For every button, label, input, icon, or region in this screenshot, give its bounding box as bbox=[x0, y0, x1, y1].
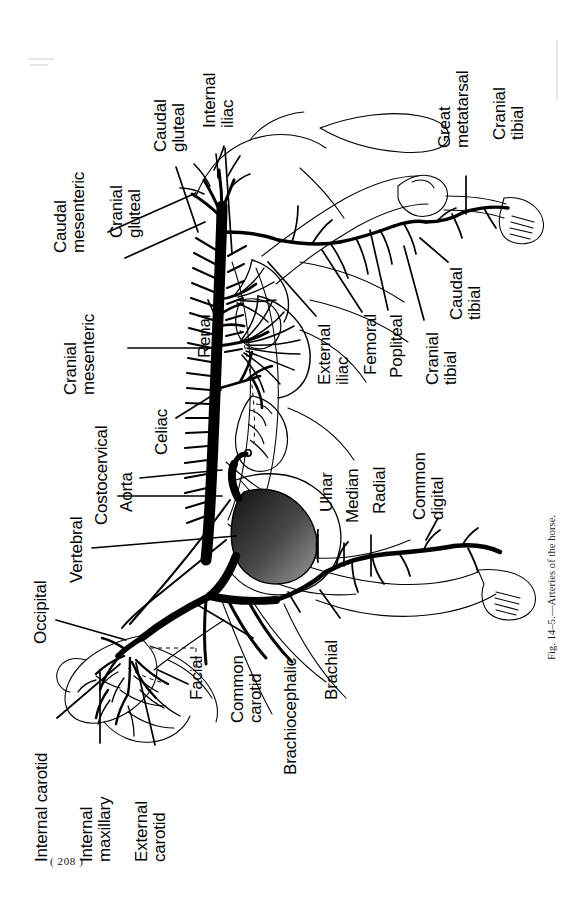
label-cranial-tibial-lower: Cranial tibial bbox=[491, 88, 527, 140]
label-popliteal: Popliteal bbox=[388, 315, 405, 378]
label-femoral: Femoral bbox=[362, 314, 379, 375]
label-external-carotid: External carotid bbox=[133, 801, 169, 862]
label-facial: Facial bbox=[188, 656, 205, 700]
label-caudal-mesenteric: Caudal mesenteric bbox=[52, 172, 88, 253]
label-renal: Renal bbox=[196, 315, 213, 358]
label-internal-carotid: Internal carotid bbox=[33, 753, 50, 862]
label-aorta: Aorta bbox=[118, 472, 135, 512]
label-ulnar: Ulnar bbox=[318, 472, 335, 512]
page-number: ( 208 ) bbox=[50, 855, 84, 867]
label-median: Median bbox=[344, 468, 361, 523]
label-caudal-tibial: Caudal tibial bbox=[448, 267, 484, 320]
label-celiac: Celiac bbox=[153, 409, 170, 455]
kidney-outline bbox=[236, 299, 281, 349]
label-common-carotid: Common carotid bbox=[229, 655, 265, 723]
label-great-metatarsal: Great metatarsal bbox=[436, 71, 472, 148]
cranial-mesenteric-fan bbox=[218, 296, 310, 398]
label-costocervical: Costocervical bbox=[93, 426, 110, 525]
gluteal-branch-twigs bbox=[180, 146, 250, 194]
scan-speck bbox=[30, 64, 48, 66]
label-occipital: Occipital bbox=[32, 581, 49, 644]
label-external-iliac: External iliac bbox=[316, 324, 352, 385]
aorta-trunk bbox=[206, 206, 222, 560]
label-cranial-tibial-upper: Cranial tibial bbox=[424, 333, 460, 385]
label-vertebral: Vertebral bbox=[68, 517, 85, 583]
figure-page: Caudal mesentericCaudal glutealCranial g… bbox=[0, 0, 586, 923]
figure-caption: Fig. 14–5.—Arteries of the horse. bbox=[546, 515, 557, 660]
label-brachiocephalic: Brachiocephalic bbox=[282, 658, 299, 775]
label-cranial-mesenteric: Cranial mesenteric bbox=[62, 314, 98, 395]
label-internal-maxillary: Internal maxillary bbox=[78, 797, 114, 862]
label-internal-iliac: Internal iliac bbox=[201, 73, 237, 128]
scan-speck bbox=[556, 40, 558, 100]
label-common-digital: Common digital bbox=[411, 452, 447, 520]
scan-speck bbox=[28, 58, 54, 60]
label-cranial-gluteal: Cranial gluteal bbox=[108, 186, 144, 238]
label-radial: Radial bbox=[371, 467, 388, 514]
label-brachial: Brachial bbox=[323, 640, 340, 700]
label-caudal-gluteal: Caudal gluteal bbox=[152, 99, 188, 152]
